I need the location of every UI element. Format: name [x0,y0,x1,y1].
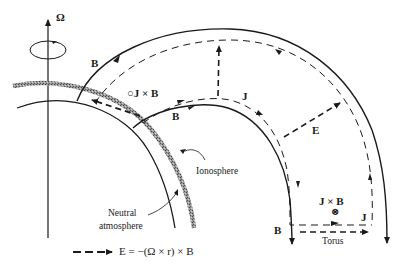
ionosphere-label: Ionosphere [196,167,238,177]
b-inner-label: B [172,111,179,122]
j-torus-label: J [361,212,367,223]
torus-label: Torus [322,237,344,247]
ionosphere-pointer-arrow-icon [180,149,186,154]
e-field-label: E [312,125,319,136]
j-upper-label: J [242,91,248,102]
omega-label: Ω [56,12,65,23]
neutral-atmosphere-surface [17,101,175,228]
b-outer-label: B [91,58,98,69]
otimes-icon: ⊗ [331,207,339,217]
j-arrow-icon [275,49,282,55]
ionosphere-pointer [185,150,205,160]
neutral-pointer [148,192,177,215]
diagram-canvas [0,0,393,266]
j-arrow-icon [296,181,300,188]
neutral-label-line2: atmosphere [99,222,143,232]
ionosphere-band [13,83,194,228]
e-field-arrow-upper [218,46,219,96]
jxb-circle-label: ○J × B [127,88,158,99]
legend-equation: E = −(Ω × r) × B [119,246,194,257]
j-arrow-icon [368,173,372,180]
b-bottom-label: B [274,225,281,236]
neutral-label-line1: Neutral [108,209,137,219]
j-arrow-icon [256,110,263,115]
